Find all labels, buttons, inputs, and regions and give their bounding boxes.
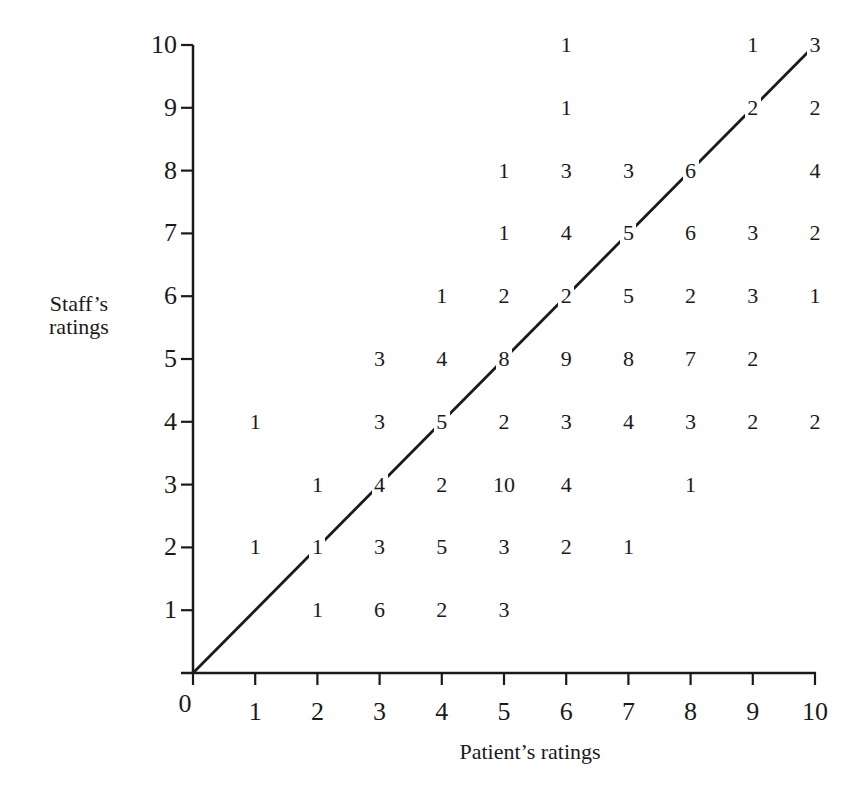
count-cell: 3 xyxy=(372,348,388,370)
count-cell: 2 xyxy=(745,411,761,433)
chart-canvas xyxy=(0,0,857,797)
count-cell: 2 xyxy=(807,97,823,119)
count-cell: 4 xyxy=(558,222,574,244)
count-cell: 10 xyxy=(489,474,519,496)
count-cell: 6 xyxy=(372,599,388,621)
count-cell: 1 xyxy=(434,285,450,307)
count-cell: 8 xyxy=(620,348,636,370)
count-cell: 1 xyxy=(620,536,636,558)
count-cell: 1 xyxy=(558,97,574,119)
count-cell: 3 xyxy=(496,536,512,558)
y-tick-label: 3 xyxy=(137,472,177,498)
x-tick-label: 4 xyxy=(422,699,462,725)
x-tick-label: 0 xyxy=(165,691,205,717)
count-cell: 1 xyxy=(683,474,699,496)
count-cell: 2 xyxy=(496,285,512,307)
count-cell: 1 xyxy=(807,285,823,307)
count-cell: 3 xyxy=(683,411,699,433)
count-cell: 1 xyxy=(496,160,512,182)
count-cell: 5 xyxy=(620,285,636,307)
count-cell: 3 xyxy=(372,411,388,433)
count-cell: 4 xyxy=(807,160,823,182)
count-cell: 1 xyxy=(496,222,512,244)
count-cell: 2 xyxy=(745,97,761,119)
count-cell: 3 xyxy=(807,34,823,56)
count-cell: 1 xyxy=(309,599,325,621)
x-tick-label: 7 xyxy=(608,699,648,725)
count-cell: 5 xyxy=(434,411,450,433)
y-tick-label: 4 xyxy=(137,409,177,435)
y-axis-title-line1: Staff’s xyxy=(34,292,124,315)
count-cell: 5 xyxy=(434,536,450,558)
y-tick-label: 1 xyxy=(137,597,177,623)
count-cell: 3 xyxy=(372,536,388,558)
count-cell: 1 xyxy=(309,474,325,496)
count-cell: 3 xyxy=(558,411,574,433)
count-cell: 4 xyxy=(558,474,574,496)
y-tick-label: 2 xyxy=(137,534,177,560)
count-cell: 2 xyxy=(496,411,512,433)
count-cell: 3 xyxy=(496,599,512,621)
x-tick-label: 5 xyxy=(484,699,524,725)
count-cell: 4 xyxy=(620,411,636,433)
count-cell: 2 xyxy=(558,536,574,558)
count-cell: 6 xyxy=(683,222,699,244)
y-tick-label: 10 xyxy=(137,32,177,58)
y-axis-title: Staff’s ratings xyxy=(34,292,124,338)
x-tick-label: 6 xyxy=(546,699,586,725)
count-cell: 2 xyxy=(807,411,823,433)
y-tick-label: 7 xyxy=(137,220,177,246)
count-cell: 2 xyxy=(558,285,574,307)
count-cell: 1 xyxy=(558,34,574,56)
count-cell: 1 xyxy=(309,536,325,558)
count-cell: 3 xyxy=(620,160,636,182)
count-cell: 6 xyxy=(683,160,699,182)
x-tick-label: 3 xyxy=(360,699,400,725)
y-tick-label: 6 xyxy=(137,283,177,309)
count-cell: 2 xyxy=(745,348,761,370)
count-cell: 3 xyxy=(745,222,761,244)
count-cell: 5 xyxy=(620,222,636,244)
count-cell: 2 xyxy=(807,222,823,244)
count-cell: 3 xyxy=(558,160,574,182)
count-cell: 3 xyxy=(745,285,761,307)
x-tick-label: 10 xyxy=(795,699,835,725)
count-cell: 2 xyxy=(434,474,450,496)
x-tick-label: 2 xyxy=(297,699,337,725)
y-axis-title-line2: ratings xyxy=(34,315,124,338)
count-cell: 4 xyxy=(434,348,450,370)
x-axis-title: Patient’s ratings xyxy=(430,740,630,763)
x-tick-label: 8 xyxy=(671,699,711,725)
y-tick-label: 8 xyxy=(137,158,177,184)
count-cell: 9 xyxy=(558,348,574,370)
count-cell: 1 xyxy=(745,34,761,56)
count-cell: 2 xyxy=(683,285,699,307)
count-cell: 7 xyxy=(683,348,699,370)
count-cell: 1 xyxy=(247,411,263,433)
count-cell: 4 xyxy=(372,474,388,496)
count-cell: 1 xyxy=(247,536,263,558)
y-tick-label: 9 xyxy=(137,95,177,121)
count-cell: 8 xyxy=(496,348,512,370)
count-cell: 2 xyxy=(434,599,450,621)
y-tick-label: 5 xyxy=(137,346,177,372)
x-tick-label: 1 xyxy=(235,699,275,725)
x-tick-label: 9 xyxy=(733,699,773,725)
